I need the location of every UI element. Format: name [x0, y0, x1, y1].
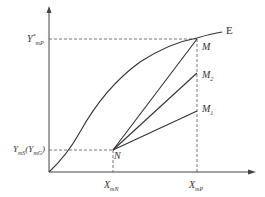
y-label-bottom: YmS(YmG)	[13, 145, 45, 156]
y-axis-arrow-icon	[47, 6, 52, 13]
x-label-right: XmP	[189, 180, 203, 192]
point-label-m: M	[202, 42, 210, 52]
line-n-m2	[113, 73, 197, 150]
point-label-m2: M2	[202, 70, 213, 82]
x-label-left: XmN	[104, 180, 118, 192]
y-label-top: Y*mP	[27, 33, 44, 46]
x-axis-arrow-icon	[248, 170, 256, 175]
line-n-m	[113, 39, 197, 150]
point-label-m1: M1	[202, 104, 213, 116]
line-n-m1	[113, 111, 197, 150]
equilibrium-curve-e	[49, 32, 222, 172]
point-label-n: N	[114, 151, 121, 161]
curve-label-e: E	[226, 25, 233, 36]
